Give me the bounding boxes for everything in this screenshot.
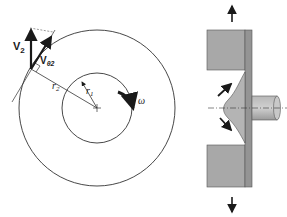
r2-label: r2 (52, 80, 60, 93)
v-theta2-label: Vθ2 (40, 55, 55, 67)
disk-diagram: V2 Vθ2 r2 r1 ω (12, 28, 175, 186)
hub-bulge (224, 72, 246, 143)
r1-label: r1 (86, 85, 93, 98)
lower-casing-block (207, 145, 245, 187)
back-plate (245, 30, 252, 187)
flow-arrow-upper-icon (218, 84, 231, 96)
v2-label: V2 (13, 40, 25, 55)
omega-label: ω (138, 95, 145, 106)
figure-canvas: V2 Vθ2 r2 r1 ω (0, 0, 287, 217)
omega-rotation-arrow-icon (118, 92, 133, 108)
upper-casing-block (207, 30, 245, 70)
impeller-cross-section (207, 6, 287, 212)
